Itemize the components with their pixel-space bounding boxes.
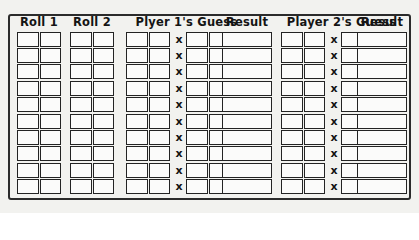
result-1-box[interactable]	[222, 163, 272, 178]
player-2-guess-box-a[interactable]	[281, 130, 303, 145]
player-1-guess-box-c[interactable]	[186, 114, 208, 129]
roll-1-box-b[interactable]	[40, 48, 62, 63]
player-1-guess-box-c[interactable]	[186, 146, 208, 161]
roll-1-box-b[interactable]	[40, 97, 62, 112]
roll-2-box-b[interactable]	[93, 114, 115, 129]
player-1-guess-box-c[interactable]	[186, 64, 208, 79]
result-2-box[interactable]	[357, 130, 407, 145]
roll-1-box-a[interactable]	[17, 146, 39, 161]
result-2-box[interactable]	[357, 32, 407, 47]
result-2-box[interactable]	[357, 163, 407, 178]
roll-1-box-a[interactable]	[17, 64, 39, 79]
player-2-guess-box-b[interactable]	[304, 179, 326, 194]
roll-2-box-b[interactable]	[93, 163, 115, 178]
roll-2-box-a[interactable]	[70, 97, 92, 112]
player-1-guess-box-a[interactable]	[126, 48, 148, 63]
player-2-guess-box-b[interactable]	[304, 48, 326, 63]
roll-1-box-a[interactable]	[17, 179, 39, 194]
result-1-box[interactable]	[222, 146, 272, 161]
player-2-guess-box-a[interactable]	[281, 81, 303, 96]
roll-2-box-b[interactable]	[93, 146, 115, 161]
result-2-box[interactable]	[357, 146, 407, 161]
player-2-guess-box-b[interactable]	[304, 64, 326, 79]
player-1-guess-box-b[interactable]	[149, 179, 171, 194]
roll-1-box-b[interactable]	[40, 179, 62, 194]
player-2-guess-box-b[interactable]	[304, 81, 326, 96]
roll-2-box-a[interactable]	[70, 114, 92, 129]
roll-2-box-a[interactable]	[70, 32, 92, 47]
roll-1-box-a[interactable]	[17, 48, 39, 63]
player-2-guess-box-a[interactable]	[281, 179, 303, 194]
roll-1-box-a[interactable]	[17, 130, 39, 145]
player-2-guess-box-a[interactable]	[281, 32, 303, 47]
player-2-guess-box-a[interactable]	[281, 64, 303, 79]
result-1-box[interactable]	[222, 32, 272, 47]
roll-2-box-b[interactable]	[93, 179, 115, 194]
roll-1-box-a[interactable]	[17, 97, 39, 112]
result-1-box[interactable]	[222, 97, 272, 112]
player-1-guess-box-a[interactable]	[126, 114, 148, 129]
result-2-box[interactable]	[357, 48, 407, 63]
player-2-guess-box-a[interactable]	[281, 163, 303, 178]
player-1-guess-box-c[interactable]	[186, 81, 208, 96]
roll-2-box-b[interactable]	[93, 130, 115, 145]
player-1-guess-box-b[interactable]	[149, 114, 171, 129]
roll-1-box-b[interactable]	[40, 114, 62, 129]
player-1-guess-box-c[interactable]	[186, 97, 208, 112]
player-1-guess-box-a[interactable]	[126, 32, 148, 47]
roll-2-box-a[interactable]	[70, 64, 92, 79]
result-2-box[interactable]	[357, 64, 407, 79]
player-1-guess-box-b[interactable]	[149, 32, 171, 47]
roll-2-box-a[interactable]	[70, 81, 92, 96]
result-1-box[interactable]	[222, 114, 272, 129]
roll-1-box-a[interactable]	[17, 114, 39, 129]
roll-2-box-b[interactable]	[93, 81, 115, 96]
roll-2-box-b[interactable]	[93, 97, 115, 112]
player-2-guess-box-b[interactable]	[304, 97, 326, 112]
player-1-guess-box-a[interactable]	[126, 179, 148, 194]
player-1-guess-box-a[interactable]	[126, 146, 148, 161]
player-1-guess-box-c[interactable]	[186, 32, 208, 47]
player-1-guess-box-b[interactable]	[149, 163, 171, 178]
player-2-guess-box-a[interactable]	[281, 114, 303, 129]
player-1-guess-box-b[interactable]	[149, 146, 171, 161]
player-1-guess-box-a[interactable]	[126, 64, 148, 79]
player-2-guess-box-b[interactable]	[304, 146, 326, 161]
result-1-box[interactable]	[222, 179, 272, 194]
result-1-box[interactable]	[222, 64, 272, 79]
player-1-guess-box-c[interactable]	[186, 130, 208, 145]
roll-1-box-a[interactable]	[17, 81, 39, 96]
result-2-box[interactable]	[357, 81, 407, 96]
roll-1-box-b[interactable]	[40, 130, 62, 145]
player-1-guess-box-a[interactable]	[126, 163, 148, 178]
player-2-guess-box-b[interactable]	[304, 163, 326, 178]
player-1-guess-box-b[interactable]	[149, 81, 171, 96]
roll-2-box-a[interactable]	[70, 130, 92, 145]
player-2-guess-box-b[interactable]	[304, 130, 326, 145]
player-1-guess-box-a[interactable]	[126, 97, 148, 112]
roll-1-box-a[interactable]	[17, 163, 39, 178]
roll-1-box-b[interactable]	[40, 146, 62, 161]
roll-2-box-a[interactable]	[70, 179, 92, 194]
player-2-guess-box-b[interactable]	[304, 32, 326, 47]
player-1-guess-box-c[interactable]	[186, 163, 208, 178]
player-1-guess-box-b[interactable]	[149, 64, 171, 79]
roll-1-box-b[interactable]	[40, 163, 62, 178]
roll-2-box-b[interactable]	[93, 32, 115, 47]
player-1-guess-box-b[interactable]	[149, 48, 171, 63]
roll-2-box-a[interactable]	[70, 48, 92, 63]
player-2-guess-box-b[interactable]	[304, 114, 326, 129]
roll-2-box-b[interactable]	[93, 64, 115, 79]
result-2-box[interactable]	[357, 97, 407, 112]
roll-1-box-b[interactable]	[40, 81, 62, 96]
roll-1-box-b[interactable]	[40, 64, 62, 79]
player-1-guess-box-a[interactable]	[126, 81, 148, 96]
result-2-box[interactable]	[357, 179, 407, 194]
player-2-guess-box-a[interactable]	[281, 48, 303, 63]
roll-1-box-b[interactable]	[40, 32, 62, 47]
roll-2-box-a[interactable]	[70, 146, 92, 161]
roll-1-box-a[interactable]	[17, 32, 39, 47]
result-1-box[interactable]	[222, 81, 272, 96]
player-1-guess-box-b[interactable]	[149, 97, 171, 112]
result-1-box[interactable]	[222, 48, 272, 63]
